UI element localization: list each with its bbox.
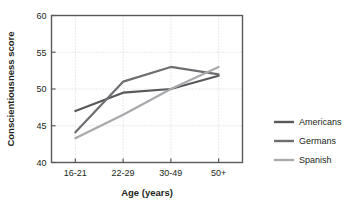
- legend-label-americans: Americans: [299, 117, 342, 127]
- x-tick-label: 16-21: [64, 168, 87, 178]
- chart-container: 4045505560 16-2122-2930-4950+ Conscienti…: [0, 0, 354, 203]
- legend-label-germans: Germans: [299, 136, 337, 146]
- x-axis-label: Age (years): [121, 187, 173, 198]
- y-tick-label: 55: [36, 48, 46, 58]
- y-tick-label: 45: [36, 121, 46, 131]
- x-tick-label: 22-29: [112, 168, 135, 178]
- legend-label-spanish: Spanish: [299, 155, 332, 165]
- y-tick-label: 50: [36, 84, 46, 94]
- line-chart: 4045505560 16-2122-2930-4950+ Conscienti…: [0, 0, 354, 203]
- y-tick-label: 60: [36, 11, 46, 21]
- x-tick-label: 50+: [211, 168, 226, 178]
- x-tick-label: 30-49: [159, 168, 182, 178]
- y-tick-label: 40: [36, 158, 46, 168]
- y-axis-label: Conscientiousness score: [5, 31, 16, 146]
